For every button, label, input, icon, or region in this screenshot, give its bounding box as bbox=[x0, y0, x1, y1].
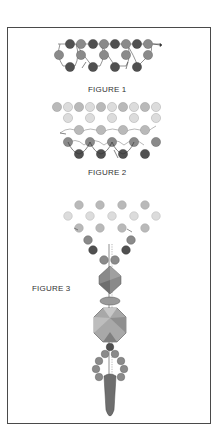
figure-3-octagon-crystal bbox=[94, 308, 126, 342]
figure-3-netting-pale bbox=[64, 201, 161, 233]
figure-3-diagram bbox=[0, 0, 221, 438]
figure-3-caption: FIGURE 3 bbox=[32, 284, 71, 293]
figure-3-bicone-bead bbox=[99, 266, 121, 294]
figure-3-oval-bead bbox=[100, 297, 120, 305]
figure-3-drop-bead bbox=[104, 374, 116, 416]
figure-3-fringe-beads bbox=[84, 236, 136, 265]
